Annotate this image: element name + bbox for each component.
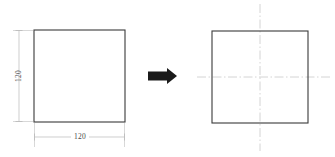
transform-arrow-group: [148, 68, 177, 84]
vertical-dimension-label: 120: [14, 70, 23, 82]
right-arrow-icon: [148, 68, 177, 84]
left-view-group: 120 120: [13, 30, 125, 147]
left-square-outline: [34, 30, 125, 122]
right-view-group: [197, 4, 331, 151]
horizontal-dimension-label: 120: [74, 132, 86, 141]
technical-drawing: 120 120: [0, 0, 335, 157]
drawing-canvas: 120 120: [0, 0, 335, 157]
